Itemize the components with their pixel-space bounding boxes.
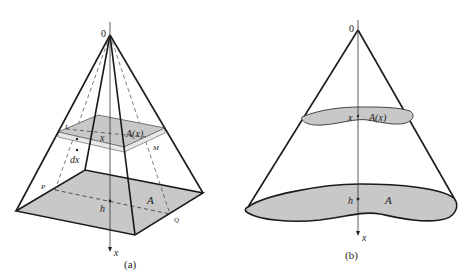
axis-x-label-b: x [361, 232, 367, 243]
dx-label: dx [70, 154, 80, 165]
caption-a: (a) [124, 258, 137, 271]
origin-label-a: 0 [101, 28, 106, 39]
height-label-b: h [348, 195, 353, 206]
slice-x-label-b: x [347, 112, 353, 123]
slice-area-label-a: A(x) [125, 128, 144, 140]
slice-area-label-b: A(x) [368, 112, 387, 124]
point-P: P [40, 183, 46, 191]
point-Q: Q [174, 216, 179, 224]
pyramid-base [16, 170, 203, 235]
point-M: M [152, 144, 160, 152]
pyramid-figure: 0 A(x) x dx A h x L M P Q (a) [16, 22, 203, 271]
caption-b: (b) [345, 249, 358, 262]
slice-x-label-a: x [99, 132, 105, 143]
height-label-a: h [100, 203, 105, 214]
base-area-label-b: A [384, 194, 392, 206]
cone-figure: 0 A(x) x A h x (b) [245, 20, 456, 262]
origin-label-b: 0 [349, 23, 354, 34]
base-area-label-a: A [146, 194, 154, 206]
axis-x-label-a: x [113, 247, 119, 258]
point-L: L [64, 123, 69, 131]
pyramid-slice [58, 115, 165, 147]
